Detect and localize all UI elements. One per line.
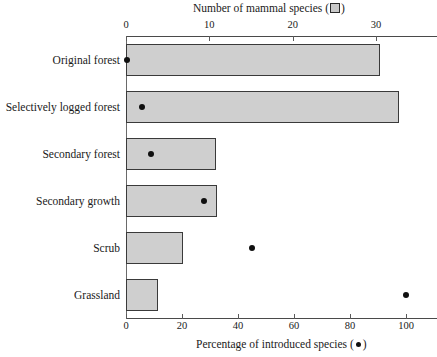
bottom-axis-title-close: )	[363, 338, 367, 350]
bar	[126, 232, 183, 264]
category-label: Selectively logged forest	[6, 101, 120, 113]
top-axis-tick	[293, 36, 294, 41]
bottom-axis-tick	[406, 314, 407, 319]
category-label: Original forest	[53, 54, 120, 66]
bar	[126, 138, 216, 170]
legend-square-icon	[330, 3, 340, 13]
top-axis-title-text: Number of mammal species (	[193, 2, 329, 14]
category-label: Secondary growth	[36, 195, 120, 207]
bottom-axis-title: Percentage of introduced species ()	[196, 338, 367, 350]
left-axis-line	[126, 36, 127, 319]
top-axis-tick-label: 30	[371, 19, 382, 30]
bottom-axis-tick-label: 80	[345, 320, 356, 331]
data-point-dot	[201, 198, 207, 204]
top-axis-tick-label: 20	[287, 19, 298, 30]
data-point-dot	[148, 151, 154, 157]
category-label: Scrub	[93, 242, 120, 254]
bar	[126, 279, 158, 311]
top-axis-title: Number of mammal species ()	[193, 2, 345, 14]
bottom-axis-line	[126, 318, 437, 319]
bottom-axis-tick	[350, 314, 351, 319]
data-point-dot	[139, 104, 145, 110]
chart-figure: Number of mammal species () Percentage o…	[0, 0, 437, 357]
top-axis-tick	[209, 36, 210, 41]
bottom-axis-tick	[294, 314, 295, 319]
bottom-axis-tick-label: 100	[398, 320, 414, 331]
bottom-axis-tick	[126, 314, 127, 319]
bottom-axis-tick	[238, 314, 239, 319]
data-point-dot	[249, 245, 255, 251]
data-point-dot	[403, 292, 409, 298]
top-axis-tick-label: 10	[204, 19, 215, 30]
bar	[126, 91, 399, 123]
legend-circle-icon	[356, 342, 361, 347]
bottom-axis-tick	[182, 314, 183, 319]
top-axis-tick	[126, 36, 127, 41]
bottom-axis-title-text: Percentage of introduced species (	[196, 338, 354, 350]
bottom-axis-tick-label: 60	[289, 320, 300, 331]
top-axis-tick-label: 0	[123, 19, 128, 30]
top-axis-title-close: )	[341, 2, 345, 14]
category-label: Secondary forest	[42, 148, 120, 160]
top-axis-tick	[376, 36, 377, 41]
category-label: Grassland	[74, 289, 120, 301]
data-point-dot	[124, 57, 130, 63]
top-axis-line	[126, 36, 437, 37]
bottom-axis-tick-label: 0	[123, 320, 128, 331]
bottom-axis-tick-label: 20	[177, 320, 188, 331]
bar	[126, 44, 380, 76]
bottom-axis-tick-label: 40	[233, 320, 244, 331]
